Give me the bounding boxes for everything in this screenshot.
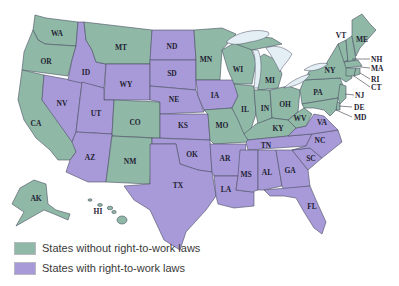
legend-swatch-with — [14, 262, 36, 275]
label-md: MD — [354, 113, 367, 122]
label-in: IN — [261, 104, 270, 113]
label-il: IL — [241, 105, 249, 114]
label-ia: IA — [211, 91, 220, 100]
label-nh: NH — [371, 55, 382, 64]
label-ga: GA — [284, 166, 296, 175]
label-nm: NM — [124, 157, 137, 166]
label-ny: NY — [325, 66, 336, 75]
label-va: VA — [317, 118, 327, 127]
label-hi: HI — [94, 207, 103, 216]
label-id: ID — [82, 68, 91, 77]
label-me: ME — [356, 35, 368, 44]
label-mi: MI — [265, 76, 275, 85]
label-de: DE — [354, 103, 364, 112]
label-wv: WV — [294, 114, 308, 123]
legend-item-without: States without right-to-work laws — [14, 240, 254, 256]
label-ne: NE — [169, 95, 179, 104]
label-vt: VT — [336, 31, 346, 40]
label-ms: MS — [240, 170, 251, 179]
label-wa: WA — [51, 29, 64, 38]
label-nd: ND — [167, 42, 178, 51]
label-ok: OK — [186, 150, 198, 159]
label-co: CO — [129, 118, 140, 127]
label-ct: CT — [371, 83, 381, 92]
label-ak: AK — [30, 194, 41, 203]
label-la: LA — [221, 185, 232, 194]
label-sd: SD — [167, 69, 177, 78]
label-ut: UT — [91, 109, 101, 118]
label-az: AZ — [85, 153, 95, 162]
label-or: OR — [40, 57, 52, 66]
label-tx: TX — [173, 181, 184, 190]
label-sc: SC — [306, 154, 316, 163]
label-ks: KS — [178, 121, 188, 130]
label-nv: NV — [57, 99, 68, 108]
legend-item-with: States with right-to-work laws — [14, 260, 254, 276]
label-nj: NJ — [355, 91, 364, 100]
label-pa: PA — [313, 88, 323, 97]
label-fl: FL — [307, 202, 317, 211]
label-mn: MN — [200, 55, 213, 64]
label-al: AL — [262, 168, 272, 177]
legend-swatch-without — [14, 242, 36, 255]
label-mo: MO — [216, 121, 229, 130]
label-wi: WI — [233, 65, 244, 74]
legend-label-with: States with right-to-work laws — [42, 262, 185, 274]
state-ak[interactable] — [12, 180, 70, 226]
label-mt: MT — [115, 43, 127, 52]
label-ca: CA — [31, 119, 42, 128]
label-ar: AR — [220, 154, 231, 163]
label-oh: OH — [279, 100, 291, 109]
label-wy: WY — [120, 80, 134, 89]
legend-label-without: States without right-to-work laws — [42, 242, 200, 254]
label-ky: KY — [272, 124, 284, 133]
label-ma: MA — [371, 64, 384, 73]
label-tn: TN — [261, 141, 272, 150]
label-nc: NC — [315, 136, 326, 145]
